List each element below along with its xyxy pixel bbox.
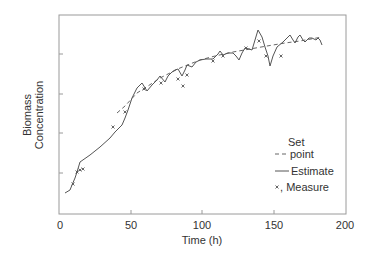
x-axis-label: Time (h) [182, 234, 223, 246]
y-axis-label: Biomass Concentration [21, 81, 45, 150]
y-axis-label-line1: Biomass [21, 93, 33, 136]
estimate-line [65, 30, 322, 193]
legend-measure-label: , Measure [280, 181, 329, 193]
x-tick-200: 200 [336, 219, 354, 231]
y-ticks [59, 54, 63, 173]
legend-measure-marker [276, 186, 279, 189]
x-tick-100: 100 [193, 219, 211, 231]
y-axis-label-line2: Concentration [33, 81, 45, 150]
x-tick-0: 0 [57, 219, 63, 231]
x-tick-labels: 0 50 100 150 200 [57, 219, 354, 231]
legend-setpoint-label-line1: Set [288, 136, 305, 148]
x-ticks [131, 210, 274, 214]
x-tick-50: 50 [125, 219, 137, 231]
chart: 0 50 100 150 200 Time (h) Biomass Concen… [0, 0, 369, 258]
legend-setpoint-label-line2: point [290, 148, 314, 160]
legend: Set point Estimate , Measure [275, 136, 334, 193]
setpoint-line [117, 37, 322, 113]
legend-estimate-label: Estimate [291, 165, 334, 177]
measurement-markers [72, 40, 283, 186]
x-tick-150: 150 [265, 219, 283, 231]
